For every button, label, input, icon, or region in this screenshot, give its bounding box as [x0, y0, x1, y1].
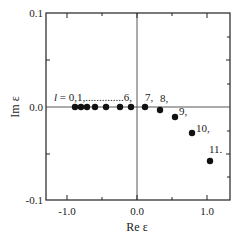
data-point-l6 [128, 104, 134, 110]
data-point-l8 [157, 107, 163, 113]
data-point-l5 [117, 104, 123, 110]
data-point-l11 [207, 158, 213, 164]
x-tick-label: 1.0 [200, 205, 214, 217]
data-point-l4 [103, 104, 109, 110]
data-point-l9 [172, 114, 178, 120]
point-label-10: 10, [196, 122, 210, 134]
data-points [72, 104, 213, 164]
group-annotation-rest: = 0,1,..............6, [57, 91, 132, 103]
data-point-l2 [84, 104, 90, 110]
group-annotation: l = 0,1,..............6, [54, 91, 132, 103]
data-point-l3 [92, 104, 98, 110]
point-label-7: 7, [145, 91, 154, 103]
x-tick-label: 0.0 [130, 205, 144, 217]
data-point-l10 [189, 130, 195, 136]
data-point-l1 [78, 104, 84, 110]
point-label-9: 9, [179, 105, 188, 117]
x-tick-label: -1.0 [58, 205, 76, 217]
y-tick-label: -0.1 [26, 194, 43, 206]
point-label-8: 8, [160, 92, 169, 104]
y-tick-label: 0.0 [29, 101, 43, 113]
data-point-l0 [72, 104, 78, 110]
data-point-l7 [142, 104, 148, 110]
y-tick-label: 0.1 [29, 7, 43, 19]
y-axis-label: Im ε [8, 96, 22, 117]
chart-canvas: 0.1 0.0 -0.1 -1.0 0.0 1.0 Re ε Im ε l = … [0, 0, 242, 243]
point-label-11: 11. [209, 143, 223, 155]
x-axis-label: Re ε [126, 220, 147, 234]
